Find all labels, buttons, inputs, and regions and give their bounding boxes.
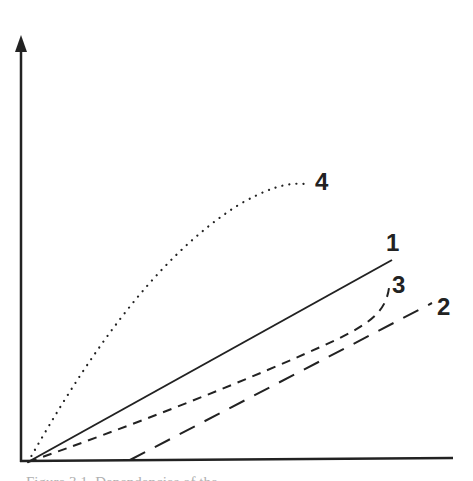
curve-3-short-dashed [28,288,389,462]
figure-diagram: 1 2 3 4 [0,0,473,481]
curve-2-label: 2 [437,293,450,320]
figure-caption: Figure 3.1. Dependencies of the ... [26,472,473,481]
y-axis-arrow-icon [15,35,27,52]
curve-1-label: 1 [386,229,399,256]
curve-3-label: 3 [392,271,405,298]
figure-caption-text: Figure 3.1. Dependencies of the ... [26,473,473,481]
x-axis [20,458,453,461]
curve-2-long-dashed [130,303,432,460]
curve-4-dotted [28,184,305,462]
curve-1-solid [28,260,392,462]
curve-4-label: 4 [315,168,329,195]
y-axis [15,35,27,462]
